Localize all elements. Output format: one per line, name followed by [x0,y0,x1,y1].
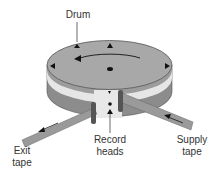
label-record-line2: heads [90,146,130,158]
label-supply-tape: Supply tape [172,134,212,158]
label-supply-line1: Supply [172,134,212,146]
label-exit-line1: Exit [6,145,38,157]
label-exit-line2: tape [6,157,38,169]
label-drum-text: Drum [66,9,90,20]
label-drum: Drum [62,9,94,21]
label-exit-tape: Exit tape [6,145,38,169]
spindle-dot [107,67,113,71]
label-record-line1: Record [90,134,130,146]
exit-arrow-icon [38,127,45,132]
exit-tape [22,108,97,147]
label-supply-line2: tape [172,146,212,158]
record-head-dot [108,102,112,106]
exit-guide-post [91,102,96,124]
label-record-heads: Record heads [90,134,130,158]
supply-guide-post [118,90,123,112]
